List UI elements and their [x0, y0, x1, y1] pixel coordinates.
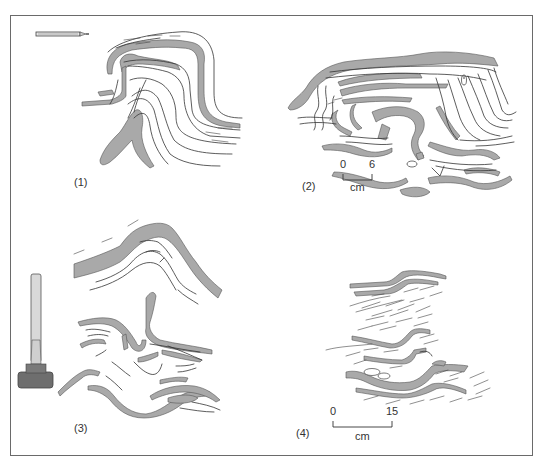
panel-4-drawing: [326, 271, 490, 427]
panel-4-scale-bar: [333, 421, 392, 427]
pencil-icon: [36, 32, 89, 36]
panel-3-label: (3): [74, 422, 87, 434]
panel-1-label: (1): [74, 176, 87, 188]
panel-4-scale-start: 0: [330, 405, 336, 417]
panel-2-label: (2): [302, 180, 315, 192]
panel-2-scale-start: 0: [340, 158, 346, 170]
hammer-icon: [18, 274, 53, 388]
panel-1-drawing: [36, 32, 242, 168]
panel-2-drawing: [288, 52, 516, 197]
panel-4-scale-end: 15: [386, 405, 398, 417]
panel-4-label: (4): [296, 427, 309, 439]
panel-2-scale-unit: cm: [350, 181, 365, 193]
fold-sketches: [0, 0, 547, 468]
panel-2-scale-end: 6: [369, 158, 375, 170]
panel-3-drawing: [18, 220, 222, 418]
panel-4-scale-unit: cm: [355, 430, 370, 442]
